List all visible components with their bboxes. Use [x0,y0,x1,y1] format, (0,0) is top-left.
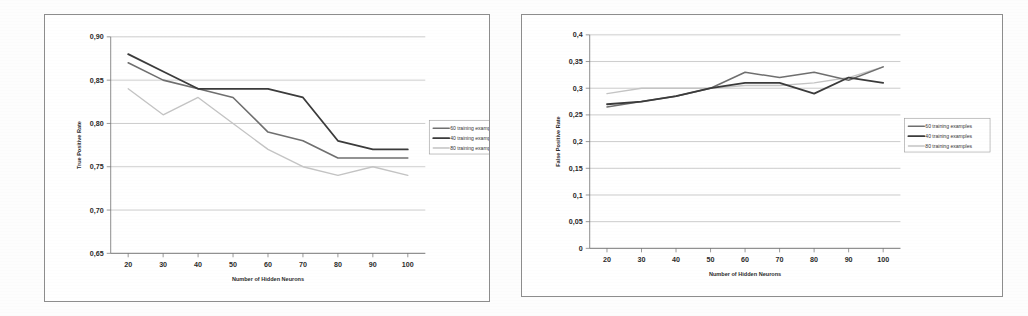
x-tick-label: 60 [264,261,272,269]
true-positive-rate-chart: 0,650,700,750,800,850,902030405060708090… [45,15,489,301]
series-line-60 [128,63,408,158]
y-tick-label: 0,75 [90,163,104,171]
x-tick-label: 100 [877,256,889,264]
y-tick-label: 0,90 [90,33,104,41]
legend-label: 60 training examples [925,123,972,129]
y-tick-label: 0,35 [569,58,583,66]
x-tick-label: 60 [741,256,749,264]
x-tick-label: 80 [334,261,342,269]
y-tick-label: 0,25 [569,112,583,120]
x-tick-label: 70 [299,261,307,269]
y-tick-label: 0,65 [90,250,104,258]
figure-page: 0,650,700,750,800,850,902030405060708090… [0,0,1028,316]
x-tick-label: 20 [603,256,611,264]
x-tick-label: 50 [229,261,237,269]
false-positive-rate-chart: 00,050,10,150,20,250,30,350,420304050607… [522,15,1002,296]
y-tick-label: 0,1 [573,192,583,200]
series-line-40 [128,54,408,149]
y-tick-label: 0,80 [90,120,104,128]
x-axis-title: Number of Hidden Neurons [232,276,304,282]
y-tick-label: 0,05 [569,218,583,226]
x-tick-label: 40 [672,256,680,264]
x-tick-label: 70 [776,256,784,264]
y-tick-label: 0,4 [573,31,583,39]
y-tick-label: 0,2 [573,138,583,146]
legend-label: 40 training examples [450,135,489,141]
legend-label: 80 training examples [450,145,489,151]
x-tick-label: 40 [194,261,202,269]
x-tick-label: 90 [845,256,853,264]
x-tick-label: 100 [402,261,414,269]
chart-card-true-positive-rate: 0,650,700,750,800,850,902030405060708090… [44,14,490,302]
x-axis-title: Number of Hidden Neurons [709,271,781,277]
y-tick-label: 0,85 [90,77,104,85]
chart-card-false-positive-rate: 00,050,10,150,20,250,30,350,420304050607… [521,14,1003,297]
x-tick-label: 80 [810,256,818,264]
y-tick-label: 0,3 [573,85,583,93]
y-axis-title: False Positive Rate [555,116,561,166]
x-tick-label: 30 [638,256,646,264]
x-tick-label: 90 [369,261,377,269]
legend-label: 60 training examples [450,125,489,131]
x-tick-label: 20 [124,261,132,269]
legend-label: 40 training examples [925,133,972,139]
x-tick-label: 30 [159,261,167,269]
series-line-40 [607,78,883,105]
x-tick-label: 50 [707,256,715,264]
y-tick-label: 0,15 [569,165,583,173]
y-tick-label: 0,70 [90,207,104,215]
legend-label: 80 training examples [925,143,972,149]
y-tick-label: 0 [579,245,583,253]
y-axis-title: True Positive Rate [76,121,82,169]
